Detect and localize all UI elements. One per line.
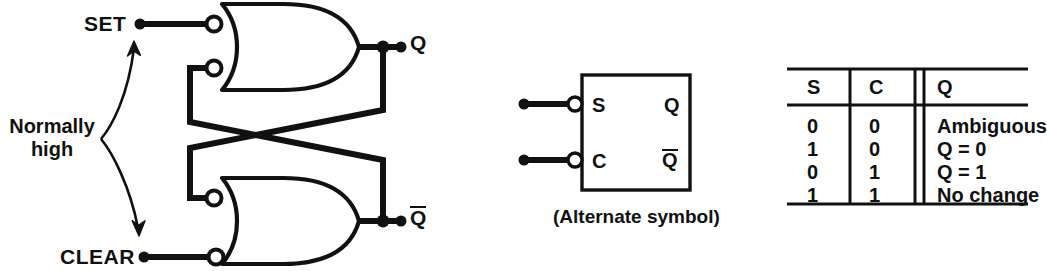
alt-symbol-c-label: C xyxy=(592,151,606,171)
arrow-head-to-clear xyxy=(132,221,145,236)
truth-table-cell-q-0: Ambiguous xyxy=(937,116,1047,136)
set-input-label: SET xyxy=(84,13,126,34)
truth-table-cell-q-3: No change xyxy=(937,185,1039,205)
clear-input-label: CLEAR xyxy=(60,246,135,267)
qbar-terminal-dot xyxy=(396,216,407,227)
truth-table-header-q: Q xyxy=(937,77,953,97)
alternate-symbol-box xyxy=(582,75,690,190)
truth-table-header-s: S xyxy=(807,77,820,97)
normally-high-line1: Normally xyxy=(9,115,95,137)
nor-gate-top-body xyxy=(222,4,359,90)
normally-high-label: Normallyhigh xyxy=(2,115,102,161)
latch-circuit xyxy=(135,4,407,265)
truth-table-cell-c-0: 0 xyxy=(869,116,880,136)
alternate-symbol-caption: (Alternate symbol) xyxy=(553,207,720,226)
normally-high-arrow xyxy=(101,41,145,236)
alt-symbol-q-label: Q xyxy=(664,95,680,115)
arrow-curve-lower xyxy=(101,139,138,228)
q-output-label: Q xyxy=(410,32,426,53)
qbar-output-text: Q xyxy=(410,206,426,228)
nor-gate-top-input-bubble-2 xyxy=(207,61,222,76)
nor-gate-bottom-body xyxy=(222,178,359,264)
alt-c-input-bubble xyxy=(568,153,582,167)
nor-gate-bottom-input-bubble-2 xyxy=(209,250,224,265)
truth-table: S C Q 0 0 Ambiguous 1 0 Q = 0 0 1 Q = 1 … xyxy=(785,68,1037,206)
truth-table-cell-s-2: 0 xyxy=(807,162,818,182)
alt-s-input-bubble xyxy=(568,97,582,111)
truth-table-cell-c-2: 1 xyxy=(869,162,880,182)
arrow-curve-upper xyxy=(101,48,134,139)
truth-table-cell-q-1: Q = 0 xyxy=(937,139,986,159)
normally-high-line2: high xyxy=(31,138,73,160)
truth-table-header-c: C xyxy=(869,77,883,97)
alt-symbol-qbar-text: Q xyxy=(662,149,678,170)
nor-gate-bottom-input-bubble-1 xyxy=(207,191,222,206)
truth-table-cell-s-3: 1 xyxy=(807,185,818,205)
alt-symbol-s-label: S xyxy=(592,95,605,115)
nor-gate-top-input-bubble-1 xyxy=(207,17,222,32)
truth-table-cell-c-1: 0 xyxy=(869,139,880,159)
truth-table-cell-s-1: 1 xyxy=(807,139,818,159)
truth-table-cell-s-0: 0 xyxy=(807,116,818,136)
alt-symbol-qbar-label: Q xyxy=(662,149,678,170)
truth-table-cell-c-3: 1 xyxy=(869,185,880,205)
alternate-symbol-graphic xyxy=(519,75,691,190)
qbar-output-label: Q xyxy=(410,206,426,228)
truth-table-cell-q-2: Q = 1 xyxy=(937,162,986,182)
q-terminal-dot xyxy=(396,42,407,53)
